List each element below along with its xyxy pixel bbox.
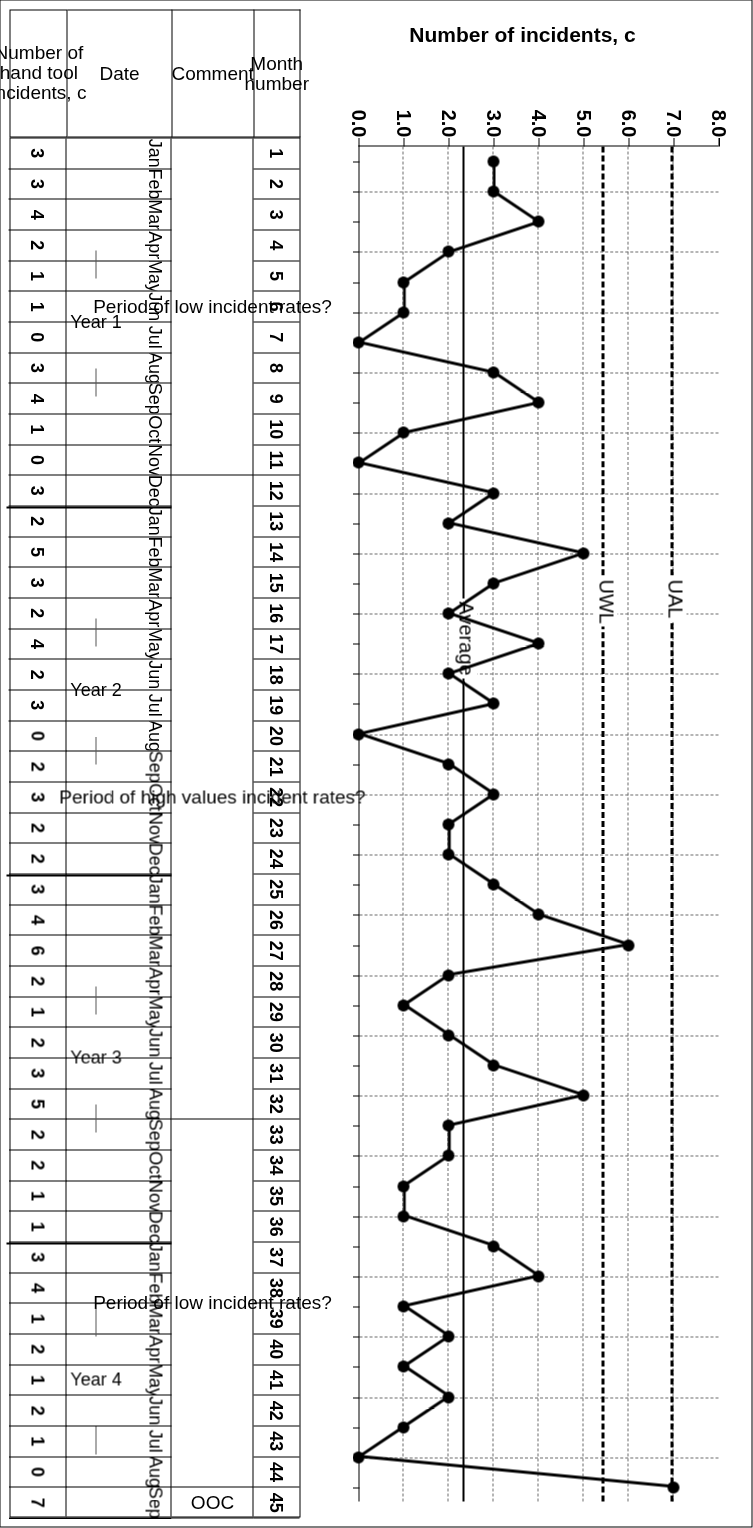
date-cell: Nov: [67, 446, 172, 477]
month-number-cell: 23: [254, 814, 300, 845]
date-cell: Dec: [67, 476, 172, 507]
year-label: Year 4: [71, 1370, 122, 1391]
figure-page: Number of incidents, c UALUWLAverage 0.0…: [0, 0, 753, 1528]
y-axis-label: Number of incidents, c: [344, 24, 704, 48]
month-number-cell: 7: [254, 323, 300, 354]
month-number-cell: 18: [254, 660, 300, 691]
date-cell: Oct: [67, 1151, 172, 1182]
year-group: Year 2: [70, 645, 124, 737]
incident-count-cell: 2: [9, 507, 67, 538]
incident-count-cell: 7: [9, 1488, 67, 1519]
month-number-cell: 5: [254, 262, 300, 293]
date-cell: Aug: [67, 1458, 172, 1489]
date-cell: Jan: [67, 139, 172, 170]
date-cell: Feb: [67, 538, 172, 569]
rotated-figure-wrapper: Number of incidents, c UALUWLAverage 0.0…: [0, 0, 753, 1528]
incident-count-cell: 0: [9, 1458, 67, 1489]
date-cell: Sep: [67, 384, 172, 415]
incident-count-cell: 4: [9, 200, 67, 231]
incident-count-cell: 5: [9, 1090, 67, 1121]
month-number-cell: 41: [254, 1366, 300, 1397]
date-cell: Nov: [67, 814, 172, 845]
month-number-cell: 13: [254, 507, 300, 538]
header-date-label: Date: [100, 64, 140, 84]
series-line: [360, 147, 719, 1502]
incident-count-cell: 6: [9, 936, 67, 967]
incident-count-cell: 2: [9, 967, 67, 998]
date-cell: Feb: [67, 170, 172, 201]
date-cell: Nov: [67, 1182, 172, 1213]
date-cell: Jan: [67, 875, 172, 906]
month-number-cell: 15: [254, 568, 300, 599]
month-number-cell: 28: [254, 967, 300, 998]
incident-count-cell: 5: [9, 538, 67, 569]
y-tick-label: 7.0: [663, 110, 686, 138]
incident-count-cell: 3: [9, 783, 67, 814]
incident-count-cell: 1: [9, 1212, 67, 1243]
month-number-cell: 21: [254, 752, 300, 783]
month-number-cell: 20: [254, 722, 300, 753]
date-cell: Mar: [67, 936, 172, 967]
month-number-cell: 27: [254, 936, 300, 967]
date-cell: Feb: [67, 906, 172, 937]
incident-count-cell: 4: [9, 630, 67, 661]
plot-area: UALUWLAverage 0.01.02.03.04.05.06.07.08.…: [359, 146, 719, 1502]
date-cell: Apr: [67, 967, 172, 998]
incident-count-cell: 3: [9, 354, 67, 385]
comment-label: OOC: [191, 1492, 234, 1514]
year-label: Year 3: [71, 1048, 122, 1069]
incident-count-cell: 2: [9, 599, 67, 630]
incident-count-cell: 1: [9, 292, 67, 323]
month-number-cell: 17: [254, 630, 300, 661]
month-number-cell: 9: [254, 384, 300, 415]
table-body-border: 1234567891011121314151617181920212223242…: [10, 138, 301, 1518]
date-cell: Dec: [67, 1212, 172, 1243]
incident-count-cell: 2: [9, 752, 67, 783]
incident-count-cell: 0: [9, 722, 67, 753]
incident-count-cell: 3: [9, 568, 67, 599]
month-number-cell: 11: [254, 446, 300, 477]
incident-count-cell: 2: [9, 1120, 67, 1151]
month-number-cell: 2: [254, 170, 300, 201]
incident-count-cell: 1: [9, 415, 67, 446]
y-tick-label: 6.0: [618, 110, 641, 138]
date-cell: Mar: [67, 200, 172, 231]
incident-count-cell: 4: [9, 1274, 67, 1305]
incident-count-cell: 3: [9, 1243, 67, 1274]
comment-cell: Period of low incident rates?: [172, 1120, 254, 1488]
header-month-number-label: Month number: [245, 54, 309, 94]
header-comment-label: Comment: [172, 64, 254, 84]
date-cell: Mar: [67, 568, 172, 599]
month-number-cell: 3: [254, 200, 300, 231]
header-month-number: Month number: [255, 10, 301, 138]
incident-count-cell: 2: [9, 1028, 67, 1059]
y-tick-label: 2.0: [438, 110, 461, 138]
incident-count-cell: 1: [9, 1366, 67, 1397]
date-cell: Jul: [67, 1427, 172, 1458]
year-group: Year 1: [70, 277, 124, 369]
incident-count-cell: 3: [9, 691, 67, 722]
incident-count-cell: 2: [9, 814, 67, 845]
date-cell: Dec: [67, 844, 172, 875]
month-number-cell: 25: [254, 875, 300, 906]
incident-count-cell: 4: [9, 384, 67, 415]
header-count-label: Number of hand tool incidents, c: [0, 44, 87, 103]
month-number-cell: 10: [254, 415, 300, 446]
date-cell: Mar: [67, 1304, 172, 1335]
date-cell: Apr: [67, 599, 172, 630]
incident-count-cell: 0: [9, 446, 67, 477]
month-number-cell: 30: [254, 1028, 300, 1059]
incident-count-cell: 1: [9, 998, 67, 1029]
comment-cell: Period of high values incident rates?: [172, 476, 254, 1120]
incident-count-cell: 1: [9, 262, 67, 293]
month-number-cell: 45: [254, 1488, 300, 1519]
month-number-cell: 32: [254, 1090, 300, 1121]
month-number-cell: 43: [254, 1427, 300, 1458]
month-number-cell: 44: [254, 1458, 300, 1489]
incident-count-cell: 2: [9, 1396, 67, 1427]
month-number-cell: 29: [254, 998, 300, 1029]
y-tick-label: 8.0: [708, 110, 731, 138]
y-tick-label: 0.0: [348, 110, 371, 138]
incident-count-cell: 1: [9, 1427, 67, 1458]
incident-count-cell: 3: [9, 476, 67, 507]
